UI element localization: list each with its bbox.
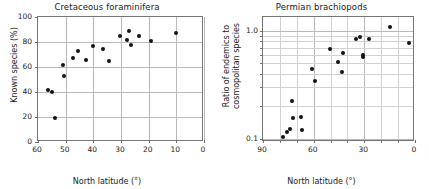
data-point bbox=[101, 47, 105, 51]
data-point bbox=[174, 31, 178, 35]
data-point bbox=[84, 58, 88, 62]
plot-area-left bbox=[37, 16, 203, 141]
x-axis-title-right: North latitude (°) bbox=[214, 177, 429, 186]
x-tick-label-left: 30 bbox=[115, 145, 125, 154]
data-point bbox=[288, 127, 292, 131]
x-tick-label-left: 20 bbox=[143, 145, 153, 154]
x-tick-label-left: 10 bbox=[171, 145, 181, 154]
x-axis-title-left: North latitude (°) bbox=[0, 177, 214, 186]
x-tick-label-right: 0 bbox=[412, 145, 417, 154]
data-point bbox=[129, 43, 133, 47]
panel-permian-brachiopods: Permian brachiopods 90603000.11.0 North … bbox=[214, 0, 429, 189]
data-point bbox=[107, 59, 111, 63]
y-tick-label-right: 0.1 bbox=[232, 133, 258, 142]
data-point bbox=[300, 128, 304, 132]
data-point bbox=[313, 79, 317, 83]
data-point bbox=[328, 47, 332, 51]
y-axis-title-right: Ratio of endemics to cosmopolitan specie… bbox=[222, 0, 241, 132]
chart-title-right: Permian brachiopods bbox=[214, 2, 429, 12]
y-axis-title-right-line2: cosmopolitan species bbox=[232, 0, 242, 132]
data-point bbox=[407, 41, 411, 45]
x-tick-label-left: 40 bbox=[88, 145, 98, 154]
data-point bbox=[71, 56, 75, 60]
plot-area-right bbox=[262, 16, 414, 141]
x-tick-label-left: 60 bbox=[32, 145, 42, 154]
x-tick-label-right: 90 bbox=[257, 145, 267, 154]
data-point bbox=[367, 37, 371, 41]
data-point bbox=[125, 38, 129, 42]
data-point bbox=[291, 116, 295, 120]
figure-container: Cretaceous foraminifera 6050403020100020… bbox=[0, 0, 429, 189]
data-point bbox=[127, 29, 131, 33]
panel-cretaceous-foraminifera: Cretaceous foraminifera 6050403020100020… bbox=[0, 0, 214, 189]
x-tick-label-left: 0 bbox=[201, 145, 206, 154]
data-point bbox=[358, 35, 362, 39]
data-point bbox=[50, 90, 54, 94]
chart-title-left: Cretaceous foraminifera bbox=[0, 2, 214, 12]
data-point bbox=[61, 63, 65, 67]
x-tick-label-right: 60 bbox=[308, 145, 318, 154]
data-point bbox=[340, 70, 344, 74]
y-axis-title-left: Known species (%) bbox=[10, 5, 19, 125]
x-tick-label-right: 30 bbox=[359, 145, 369, 154]
data-point bbox=[53, 116, 57, 120]
data-point bbox=[299, 115, 303, 119]
x-tick-label-left: 50 bbox=[60, 145, 70, 154]
y-tick-label-left: 0 bbox=[8, 137, 32, 146]
data-point bbox=[137, 34, 141, 38]
data-point bbox=[76, 49, 80, 53]
data-point bbox=[290, 99, 294, 103]
y-axis-title-right-line1: Ratio of endemics to bbox=[222, 0, 232, 132]
data-point bbox=[388, 25, 392, 29]
data-point bbox=[361, 55, 365, 59]
data-point bbox=[91, 44, 95, 48]
data-point bbox=[336, 60, 340, 64]
